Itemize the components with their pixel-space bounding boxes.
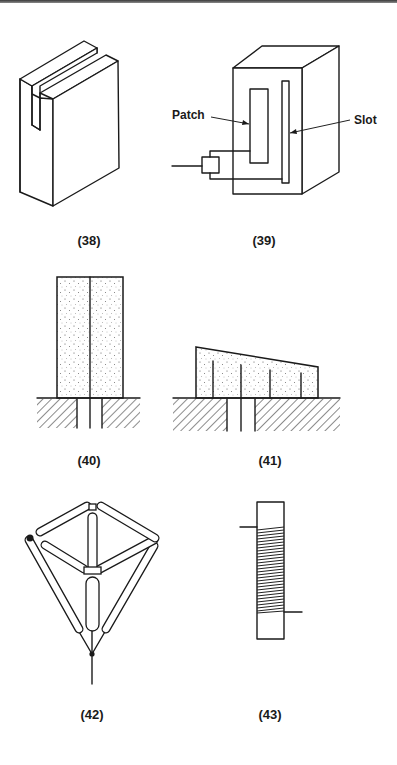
feed-node-icon: [89, 651, 94, 656]
tube-upper-left: [40, 506, 87, 532]
feed-wire-left: [78, 630, 92, 654]
ground-plane-left: [37, 399, 77, 428]
figure-40: (40): [37, 277, 140, 468]
figure-42: (42): [27, 504, 156, 722]
patch-element: [250, 89, 268, 163]
figure-label-39: (39): [252, 233, 275, 248]
tube-center-lower: [86, 577, 99, 631]
joint-top: [89, 504, 96, 510]
feed-wire-right: [92, 630, 106, 654]
ground-plane-right: [102, 399, 140, 428]
tube-upper-right: [101, 506, 155, 538]
feed-network-box: [202, 157, 219, 173]
figure-39: Patch Slot (39): [172, 46, 377, 248]
tube-center-upper: [88, 513, 97, 570]
tube-inner-left: [45, 545, 84, 569]
figure-41: (41): [173, 347, 340, 468]
callout-slot: Slot: [354, 113, 377, 127]
block-left-face: [20, 79, 53, 206]
ground-plane-left: [173, 399, 227, 431]
ground-plane-right: [255, 399, 340, 431]
box-side-face: [302, 46, 339, 194]
figure-label-38: (38): [77, 233, 100, 248]
figure-label-41: (41): [258, 453, 281, 468]
joint-left-icon: [27, 535, 34, 542]
figure-label-42: (42): [80, 707, 103, 722]
tapered-dielectric-block: [196, 347, 318, 398]
callout-patch: Patch: [172, 108, 205, 122]
figure-label-43: (43): [258, 707, 281, 722]
figure-label-40: (40): [77, 453, 100, 468]
figure-43: (43): [240, 502, 302, 722]
joint-center: [84, 567, 101, 574]
figure-page: (38) Patch Slot (39) (40): [0, 0, 397, 765]
slot-element: [282, 81, 289, 183]
figure-38: (38): [20, 41, 119, 248]
